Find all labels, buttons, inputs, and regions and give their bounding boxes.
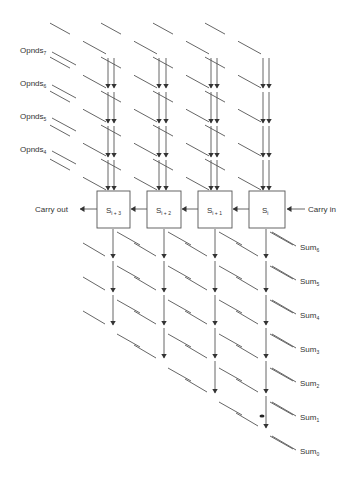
sum-label-leader [272, 232, 296, 246]
operand-label-leader [52, 52, 76, 65]
sum-stream-dash [117, 232, 140, 245]
operand-input-arrows [108, 58, 269, 190]
operand-stream-dash [83, 41, 106, 54]
sum-label-4: Sum4 [300, 311, 319, 321]
operand-stream-dash [186, 109, 209, 122]
sum-stream-dash [185, 379, 207, 392]
operand-stream-dash [205, 159, 225, 170]
sum-stream-dash [168, 266, 191, 279]
sum-stream-dash [219, 402, 242, 415]
operand-label-4: Opnds4 [20, 145, 47, 155]
operand-stream-dash [238, 75, 261, 88]
operand-stream-dash [101, 57, 121, 68]
operand-stream-dash [134, 109, 157, 122]
sum-label-6: Sum6 [300, 243, 319, 253]
operand-stream-dash [101, 159, 121, 170]
operand-stream-dash [238, 109, 261, 122]
sum-stream-dash [168, 232, 191, 245]
sum-label-1: Sum1 [300, 413, 319, 423]
operand-stream-dash [50, 125, 70, 136]
operand-stream-dash [134, 41, 157, 54]
sum-stream-dash [270, 300, 293, 313]
operand-stream-dash [101, 125, 121, 136]
sum-label-2: Sum2 [300, 379, 319, 389]
sum-stream-dash [236, 413, 258, 426]
sum-stream-dash [236, 277, 258, 290]
operand-stream-dash [186, 177, 209, 190]
sum-label-leader [272, 334, 296, 348]
sum-stream-dash [219, 334, 242, 347]
sum-stream-dash [219, 266, 242, 279]
operand-stream-dash [83, 177, 106, 190]
sum-stream-dash [168, 334, 191, 347]
sum-stream-dash [185, 311, 207, 324]
sum-stream-dash [219, 368, 242, 381]
operand-stream-dash [205, 91, 225, 102]
sum-label-3: Sum3 [300, 345, 319, 355]
sum-stream-dash [270, 232, 293, 245]
sum-stream-dash [219, 300, 242, 313]
operand-stream-dash [153, 159, 173, 170]
operand-stream-dash [101, 23, 121, 34]
sum-stream-dash [117, 266, 140, 279]
operand-stream-dash [186, 75, 209, 88]
sum-stream-dash [83, 311, 105, 324]
operand-stream-dash [83, 109, 106, 122]
sum-label-leader [272, 368, 296, 382]
operand-stream-dash [238, 177, 261, 190]
cell-s-i-plus-3: Si + 3 [97, 191, 130, 228]
operand-label-5: Opnds5 [20, 112, 47, 122]
adder-array-diagram: Si + 3 Si + 2 Si + 1 Si Carry out Carry … [0, 0, 357, 483]
sum-stream-dash [270, 402, 293, 415]
operand-stream-dash [186, 41, 209, 54]
sum-stream-dash [185, 345, 207, 358]
sum-label-0: Sum0 [300, 447, 319, 457]
operand-stream-dash [153, 125, 173, 136]
operand-stream-dash [101, 91, 121, 102]
sum-stream-dash [134, 243, 156, 256]
sum-stream-dash [219, 232, 242, 245]
cell-s-i: Si [249, 191, 285, 228]
operand-label-6: Opnds6 [20, 79, 47, 89]
operand-stream-dash [205, 57, 225, 68]
sum-stream-dash [270, 266, 293, 279]
operand-stream-dash [83, 143, 106, 156]
ink-mark [260, 414, 265, 417]
sum-stream-dash [236, 243, 258, 256]
operand-stream-dash [153, 23, 173, 34]
operand-stream-dash [134, 75, 157, 88]
carry-in-label: Carry in [308, 205, 336, 214]
operand-stream-dash [186, 143, 209, 156]
operand-stream-dash [205, 23, 225, 34]
operand-stream-dash [134, 177, 157, 190]
sum-stream-dash [117, 300, 140, 313]
sum-stream-dash [236, 379, 258, 392]
operand-stream-dash [50, 23, 70, 34]
sum-stream-dash [236, 311, 258, 324]
operand-stream-dash [83, 75, 106, 88]
sum-stream-dash [270, 334, 293, 347]
sum-stream-dash [236, 345, 258, 358]
operand-stream-dash [205, 125, 225, 136]
operand-stream-dash [50, 57, 70, 68]
cell-s-i-plus-1: Si + 1 [198, 191, 232, 228]
sum-stream-dash [185, 243, 207, 256]
sum-label-leader [272, 402, 296, 416]
operand-label-7: Opnds7 [20, 46, 47, 56]
operand-stream-dash [134, 143, 157, 156]
sum-stream-dash [83, 243, 105, 256]
sum-label-5: Sum5 [300, 277, 319, 287]
operand-label-leader [52, 118, 76, 131]
operand-stream-dash [50, 159, 70, 170]
sum-label-leader [272, 266, 296, 280]
sum-stream-dash [270, 368, 293, 381]
sum-stream-dash [185, 277, 207, 290]
sum-stream-dash [134, 345, 156, 358]
sum-stream-dash [134, 277, 156, 290]
sum-stream-dash [83, 277, 105, 290]
data-stream-lines [50, 23, 296, 450]
operand-stream-dash [153, 57, 173, 68]
sum-output-arrows [113, 229, 266, 428]
sum-stream-dash [134, 311, 156, 324]
sum-label-leader [272, 300, 296, 314]
